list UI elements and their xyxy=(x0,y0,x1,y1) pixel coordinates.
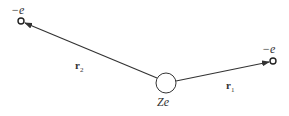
vector-r2-label: r2 xyxy=(75,60,83,74)
nucleus-label: Ze xyxy=(157,96,169,108)
vector-r2-arrow xyxy=(25,23,157,78)
vector-r1-label: r1 xyxy=(226,80,234,94)
vector-r2-subscript: 2 xyxy=(80,66,84,74)
electron1-label: −e xyxy=(262,43,275,55)
diagram-graphics xyxy=(0,0,289,116)
electron2-circle xyxy=(18,18,24,24)
nucleus-circle xyxy=(156,73,176,93)
electron1-circle xyxy=(270,58,276,64)
vector-r1-arrow xyxy=(176,62,269,81)
vector-r1-subscript: 1 xyxy=(231,86,235,94)
two-electron-atom-diagram: −e −e Ze r2 r1 xyxy=(0,0,289,116)
electron2-label: −e xyxy=(11,4,24,16)
